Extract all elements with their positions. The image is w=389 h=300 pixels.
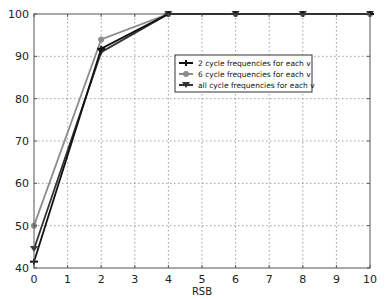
x-tick-label: 7 <box>266 273 273 286</box>
y-tick-label: 70 <box>15 135 29 148</box>
legend: 2 cycle frequencies for each v6 cycle fr… <box>175 55 315 92</box>
legend-label: 6 cycle frequencies for each v <box>198 70 311 79</box>
x-tick-label: 0 <box>31 273 38 286</box>
x-tick-label: 2 <box>98 273 105 286</box>
y-tick-label: 50 <box>15 220 29 233</box>
series-2 <box>31 11 373 229</box>
x-tick-label: 1 <box>64 273 71 286</box>
x-tick-label: 8 <box>299 273 306 286</box>
x-tick-label: 6 <box>232 273 239 286</box>
x-axis-label: RSB <box>192 286 212 297</box>
x-tick-label: 10 <box>363 273 377 286</box>
x-tick-label: 4 <box>165 273 172 286</box>
legend-item: 2 cycle frequencies for each v <box>179 59 311 68</box>
grid-lines <box>34 14 370 268</box>
x-tick-label: 9 <box>333 273 340 286</box>
x-tick-label: 5 <box>199 273 206 286</box>
legend-item: 6 cycle frequencies for each v <box>179 70 311 79</box>
line-chart: 012345678910405060708090100 RSB 2 cycle … <box>0 0 389 300</box>
axis-ticks: 012345678910405060708090100 <box>8 8 377 286</box>
y-tick-label: 40 <box>15 262 29 275</box>
legend-label: 2 cycle frequencies for each v <box>198 59 311 68</box>
x-tick-label: 3 <box>131 273 138 286</box>
y-tick-label: 90 <box>15 50 29 63</box>
legend-item: all cycle frequencies for each v <box>179 81 315 90</box>
y-tick-label: 60 <box>15 177 29 190</box>
y-tick-label: 80 <box>15 93 29 106</box>
y-tick-label: 100 <box>8 8 29 21</box>
legend-label: all cycle frequencies for each v <box>198 81 315 90</box>
